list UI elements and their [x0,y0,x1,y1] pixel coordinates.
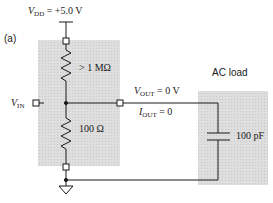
vin-terminal [33,100,39,106]
capacitor-value: 100 pF [236,131,264,141]
ac-load-title: AC load [212,68,248,78]
vdd-label: VDD = +5.0 V [28,6,83,18]
vout-label: VOUT = 0 V [134,86,180,98]
bottom-terminal [63,164,69,170]
top-terminal [63,38,69,44]
vin-label: VIN [11,98,25,110]
upper-resistor-value: > 1 MΩ [79,63,111,73]
iout-label: IOUT = 0 [139,107,172,119]
ground-icon [59,186,73,194]
lower-resistor-value: 100 Ω [79,124,104,134]
figure-label: (a) [4,34,16,44]
output-terminal [117,100,123,106]
circuit-diagram [0,0,273,203]
